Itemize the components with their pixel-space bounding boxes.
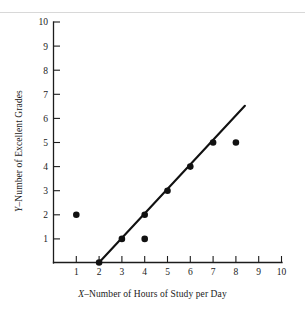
y-tick-label: 5 (43, 138, 48, 148)
x-axis-title: X–Number of Hours of Study per Day (0, 289, 305, 299)
data-point (141, 212, 148, 219)
y-axis-title-variable: Y (14, 207, 24, 212)
data-point (233, 139, 240, 146)
y-tick-label: 4 (43, 162, 48, 172)
data-point (96, 259, 103, 266)
y-tick-label: 7 (43, 90, 48, 100)
x-tick-label: 2 (97, 267, 102, 277)
y-axis-title: Y–Number of Excellent Grades (14, 51, 24, 251)
y-axis-title-text: –Number of Excellent Grades (14, 90, 24, 206)
x-tick-label: 10 (277, 267, 287, 277)
y-axis-ticks (54, 22, 61, 239)
y-tick-label: 6 (43, 114, 48, 124)
y-tick-label: 2 (43, 210, 48, 220)
plot-canvas: 10 9 8 7 6 5 4 3 2 1 1 2 3 (0, 0, 305, 312)
x-tick-label: 1 (74, 267, 79, 277)
y-axis-tick-labels: 10 9 8 7 6 5 4 3 2 1 (39, 17, 49, 244)
data-point (73, 212, 80, 219)
y-tick-label: 8 (43, 66, 48, 76)
y-tick-label: 10 (39, 17, 49, 27)
x-tick-label: 7 (211, 267, 216, 277)
data-point (187, 163, 194, 170)
y-tick-label: 1 (43, 234, 48, 244)
x-axis-title-text: –Number of Hours of Study per Day (84, 289, 227, 299)
data-point (210, 139, 217, 146)
x-tick-label: 4 (142, 267, 147, 277)
data-point (119, 236, 126, 243)
x-tick-label: 6 (188, 267, 193, 277)
y-tick-label: 9 (43, 42, 48, 52)
x-tick-label: 9 (256, 267, 261, 277)
y-tick-label: 3 (43, 186, 48, 196)
scatter-plot-figure: 10 9 8 7 6 5 4 3 2 1 1 2 3 (0, 0, 305, 312)
data-point (164, 187, 171, 194)
data-point (141, 236, 148, 243)
x-axis-tick-labels: 1 2 3 4 5 6 7 8 9 10 (74, 267, 287, 277)
x-tick-label: 3 (120, 267, 125, 277)
x-tick-label: 8 (234, 267, 239, 277)
x-tick-label: 5 (165, 267, 170, 277)
x-axis-ticks (76, 256, 281, 263)
